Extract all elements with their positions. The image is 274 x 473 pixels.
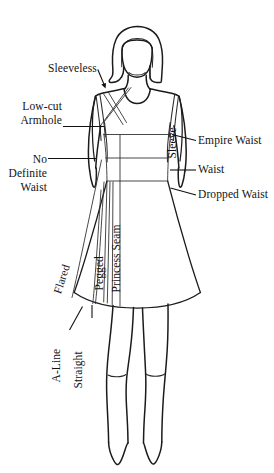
- label-no: No: [0, 152, 47, 166]
- label-dropped-waist: Dropped Waist: [198, 188, 268, 202]
- legs-group: [107, 304, 169, 465]
- leader-sleeveless: [98, 70, 105, 86]
- arrowhead-sleeveless: [101, 83, 106, 88]
- label-low-cut-armhole: Low-cut Armhole: [0, 99, 62, 127]
- leader-a-line: [70, 307, 83, 331]
- leader-dropped-waist: [171, 188, 197, 195]
- arm-right-hand: [178, 168, 185, 187]
- figure-drawing: [0, 0, 274, 473]
- jaw-accent: [129, 73, 145, 75]
- leg-left-outer: [107, 306, 113, 443]
- arm-left-inner: [96, 126, 101, 168]
- label-waist-left: Waist: [0, 180, 47, 194]
- label-no-definite-waist: No Definite Waist: [0, 152, 47, 194]
- knee-accent-right: [146, 374, 165, 376]
- skirt-group: [72, 135, 200, 308]
- bodice-diagonal-d: [104, 88, 131, 123]
- neck-and-shoulders-group: [96, 75, 180, 103]
- label-sleeve: Sleeve: [166, 127, 180, 158]
- label-princess-seam: Princess Seam: [110, 224, 124, 292]
- label-waist-right: Waist: [198, 163, 224, 177]
- label-sleeveless: Sleeveless: [48, 62, 97, 76]
- arm-left-hand: [90, 168, 97, 187]
- dress-diagram: Sleeveless Low-cut Armhole No Definite W…: [0, 0, 274, 473]
- sleeve-seam-left: [96, 97, 101, 141]
- foot-right: [144, 442, 162, 464]
- label-a-line: A-Line: [50, 349, 64, 383]
- label-low-cut: Low-cut: [0, 99, 62, 113]
- label-armhole: Armhole: [0, 113, 62, 127]
- leg-right-inner: [143, 308, 146, 443]
- face-outline: [122, 40, 152, 77]
- foot-left: [109, 443, 128, 465]
- label-empire-waist: Empire Waist: [198, 134, 262, 148]
- knee-accent-left: [108, 375, 126, 377]
- head-and-hair-group: [109, 27, 162, 83]
- skirt-right-flared: [168, 182, 201, 293]
- leg-right-outer: [162, 304, 168, 442]
- bodice-diagonal-a: [101, 88, 129, 126]
- neck-right: [146, 75, 149, 89]
- label-pegged: Pegged: [93, 256, 107, 290]
- neck-left: [125, 75, 128, 88]
- leg-left-inner: [126, 308, 133, 444]
- label-straight: Straight: [72, 351, 86, 388]
- label-definite: Definite: [0, 166, 47, 180]
